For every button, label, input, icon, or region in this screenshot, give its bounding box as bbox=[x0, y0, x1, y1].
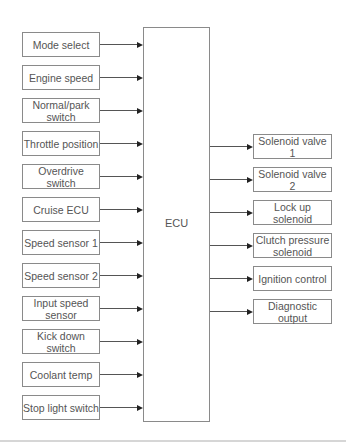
input-label: Engine speed bbox=[29, 72, 93, 84]
input-label: Speed sensor 2 bbox=[24, 270, 98, 282]
input-box: Mode select bbox=[22, 32, 100, 57]
input-arrow-line bbox=[100, 44, 138, 45]
output-box: Lock up solenoid bbox=[253, 200, 332, 225]
arrowhead-icon bbox=[247, 243, 253, 249]
input-arrow-line bbox=[100, 77, 138, 78]
arrowhead-icon bbox=[247, 276, 253, 282]
arrowhead-icon bbox=[137, 405, 143, 411]
output-label: Lock up solenoid bbox=[254, 201, 331, 225]
arrowhead-icon bbox=[137, 141, 143, 147]
output-label: Ignition control bbox=[258, 273, 326, 285]
input-label: Throttle position bbox=[24, 138, 99, 150]
input-box: Coolant temp bbox=[22, 362, 100, 387]
input-label: Stop light switch bbox=[23, 402, 99, 414]
arrowhead-icon bbox=[247, 144, 253, 150]
output-label: Solenoid valve 1 bbox=[254, 135, 331, 159]
arrowhead-icon bbox=[247, 309, 253, 315]
input-box: Throttle position bbox=[22, 131, 100, 156]
arrowhead-icon bbox=[137, 372, 143, 378]
arrowhead-icon bbox=[247, 177, 253, 183]
input-label: Coolant temp bbox=[30, 369, 92, 381]
output-arrow-line bbox=[210, 311, 248, 312]
output-arrow-line bbox=[210, 146, 248, 147]
arrowhead-icon bbox=[137, 108, 143, 114]
output-box: Clutch pressure solenoid bbox=[253, 233, 332, 258]
arrowhead-icon bbox=[137, 240, 143, 246]
input-arrow-line bbox=[100, 143, 138, 144]
input-arrow-line bbox=[100, 275, 138, 276]
input-label: Input speed sensor bbox=[23, 297, 99, 321]
input-box: Input speed sensor bbox=[22, 296, 100, 321]
input-label: Normal/park switch bbox=[23, 99, 99, 123]
input-box: Stop light switch bbox=[22, 395, 100, 420]
arrowhead-icon bbox=[137, 273, 143, 279]
output-label: Clutch pressure solenoid bbox=[254, 234, 331, 258]
output-box: Ignition control bbox=[253, 266, 332, 291]
input-arrow-line bbox=[100, 209, 138, 210]
output-arrow-line bbox=[210, 179, 248, 180]
input-label: Mode select bbox=[33, 39, 90, 51]
input-box: Kick down switch bbox=[22, 329, 100, 354]
output-arrow-line bbox=[210, 278, 248, 279]
input-arrow-line bbox=[100, 407, 138, 408]
output-box: Solenoid valve 1 bbox=[253, 134, 332, 159]
arrowhead-icon bbox=[137, 42, 143, 48]
output-label: Diagnostic output bbox=[254, 300, 331, 324]
input-arrow-line bbox=[100, 374, 138, 375]
arrowhead-icon bbox=[137, 75, 143, 81]
output-arrow-line bbox=[210, 212, 248, 213]
bottom-divider bbox=[0, 440, 346, 442]
input-box: Engine speed bbox=[22, 65, 100, 90]
arrowhead-icon bbox=[137, 339, 143, 345]
input-box: Cruise ECU bbox=[22, 197, 100, 222]
input-label: Kick down switch bbox=[23, 330, 99, 354]
ecu-label: ECU bbox=[143, 217, 210, 229]
input-arrow-line bbox=[100, 176, 138, 177]
output-box: Diagnostic output bbox=[253, 299, 332, 324]
input-arrow-line bbox=[100, 308, 138, 309]
input-box: Speed sensor 2 bbox=[22, 263, 100, 288]
input-label: Speed sensor 1 bbox=[24, 237, 98, 249]
input-arrow-line bbox=[100, 341, 138, 342]
input-label: Overdrive switch bbox=[23, 165, 99, 189]
arrowhead-icon bbox=[137, 174, 143, 180]
input-arrow-line bbox=[100, 110, 138, 111]
arrowhead-icon bbox=[137, 306, 143, 312]
output-box: Solenoid valve 2 bbox=[253, 167, 332, 192]
output-label: Solenoid valve 2 bbox=[254, 168, 331, 192]
input-box: Speed sensor 1 bbox=[22, 230, 100, 255]
arrowhead-icon bbox=[247, 210, 253, 216]
input-box: Normal/park switch bbox=[22, 98, 100, 123]
input-label: Cruise ECU bbox=[33, 204, 88, 216]
input-box: Overdrive switch bbox=[22, 164, 100, 189]
arrowhead-icon bbox=[137, 207, 143, 213]
output-arrow-line bbox=[210, 245, 248, 246]
input-arrow-line bbox=[100, 242, 138, 243]
